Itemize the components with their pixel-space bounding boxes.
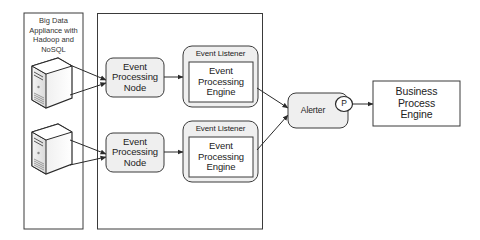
label-line: Hadoop and xyxy=(33,35,74,45)
label-line: Engine xyxy=(207,162,236,172)
event-processing-engine-2-label: Event Processing Engine xyxy=(189,137,253,177)
label-line: Node xyxy=(124,83,146,93)
label-line: NoSQL xyxy=(41,45,66,55)
business-process-engine-label: Business Process Engine xyxy=(373,81,460,126)
event-processing-engine-1-label: Event Processing Engine xyxy=(189,62,253,102)
event-processing-node-1-label: Event Processing Node xyxy=(106,58,164,97)
label-line: Appliance with xyxy=(29,26,77,36)
event-listener-2-title: Event Listener xyxy=(183,123,258,136)
label-line: Engine xyxy=(400,109,432,121)
event-listener-1-title: Event Listener xyxy=(183,48,258,61)
label-line: Big Data xyxy=(39,16,68,26)
server-icon xyxy=(32,58,72,108)
event-processing-node-2-label: Event Processing Node xyxy=(106,133,164,172)
alerter-label: Alerter xyxy=(290,104,336,118)
appliance-label: Big Data Appliance with Hadoop and NoSQL xyxy=(24,15,83,55)
label-line: Node xyxy=(124,158,146,168)
label-line: Engine xyxy=(207,87,236,97)
alerter-port-label: P xyxy=(336,97,352,111)
label-line: Business xyxy=(396,86,438,98)
server-icon xyxy=(32,124,72,174)
